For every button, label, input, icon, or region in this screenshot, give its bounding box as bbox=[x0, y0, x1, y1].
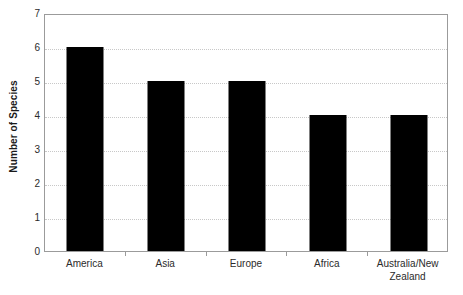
x-axis-tick-marks bbox=[44, 252, 448, 257]
bars-layer bbox=[45, 15, 447, 251]
x-axis-tick-mark bbox=[206, 252, 207, 256]
bar-slot bbox=[45, 15, 126, 251]
x-axis-tick-label-line: Europe bbox=[206, 258, 287, 271]
y-axis-tick-label: 4 bbox=[24, 111, 40, 121]
bar-chart: Number of Species 01234567 AmericaAsiaEu… bbox=[0, 0, 463, 295]
y-axis-tick-label: 0 bbox=[24, 247, 40, 257]
y-axis-tick-label: 6 bbox=[24, 43, 40, 53]
bar[interactable] bbox=[309, 115, 346, 251]
bar[interactable] bbox=[67, 47, 104, 251]
bar[interactable] bbox=[390, 115, 427, 251]
bar[interactable] bbox=[148, 81, 185, 251]
x-axis-tick-label: Europe bbox=[206, 258, 287, 271]
plot-area bbox=[44, 14, 448, 252]
x-axis-tick-label: America bbox=[44, 258, 125, 271]
bar-slot bbox=[287, 15, 368, 251]
x-axis-tick-label-line: Africa bbox=[286, 258, 367, 271]
y-axis-tick-label: 5 bbox=[24, 77, 40, 87]
y-axis-tick-labels: 01234567 bbox=[24, 14, 40, 252]
x-axis-tick-mark bbox=[125, 252, 126, 256]
x-axis-tick-mark bbox=[367, 252, 368, 256]
bar-slot bbox=[207, 15, 288, 251]
y-axis-title: Number of Species bbox=[0, 0, 26, 252]
x-axis-tick-mark bbox=[286, 252, 287, 256]
bar-slot bbox=[126, 15, 207, 251]
x-axis-tick-label-line: Zealand bbox=[367, 271, 448, 284]
x-axis-tick-labels: AmericaAsiaEuropeAfricaAustralia/NewZeal… bbox=[44, 258, 448, 290]
x-axis-tick-label-line: Asia bbox=[125, 258, 206, 271]
x-axis-tick-label: Africa bbox=[286, 258, 367, 271]
bar-slot bbox=[368, 15, 449, 251]
x-axis-tick-label: Asia bbox=[125, 258, 206, 271]
x-axis-tick-label: Australia/NewZealand bbox=[367, 258, 448, 283]
x-axis-tick-label-line: America bbox=[44, 258, 125, 271]
x-axis-tick-label-line: Australia/New bbox=[367, 258, 448, 271]
y-axis-tick-label: 2 bbox=[24, 179, 40, 189]
y-axis-title-label: Number of Species bbox=[8, 80, 19, 172]
y-axis-tick-label: 7 bbox=[24, 9, 40, 19]
y-axis-tick-label: 1 bbox=[24, 213, 40, 223]
y-axis-tick-label: 3 bbox=[24, 145, 40, 155]
bar[interactable] bbox=[228, 81, 265, 251]
